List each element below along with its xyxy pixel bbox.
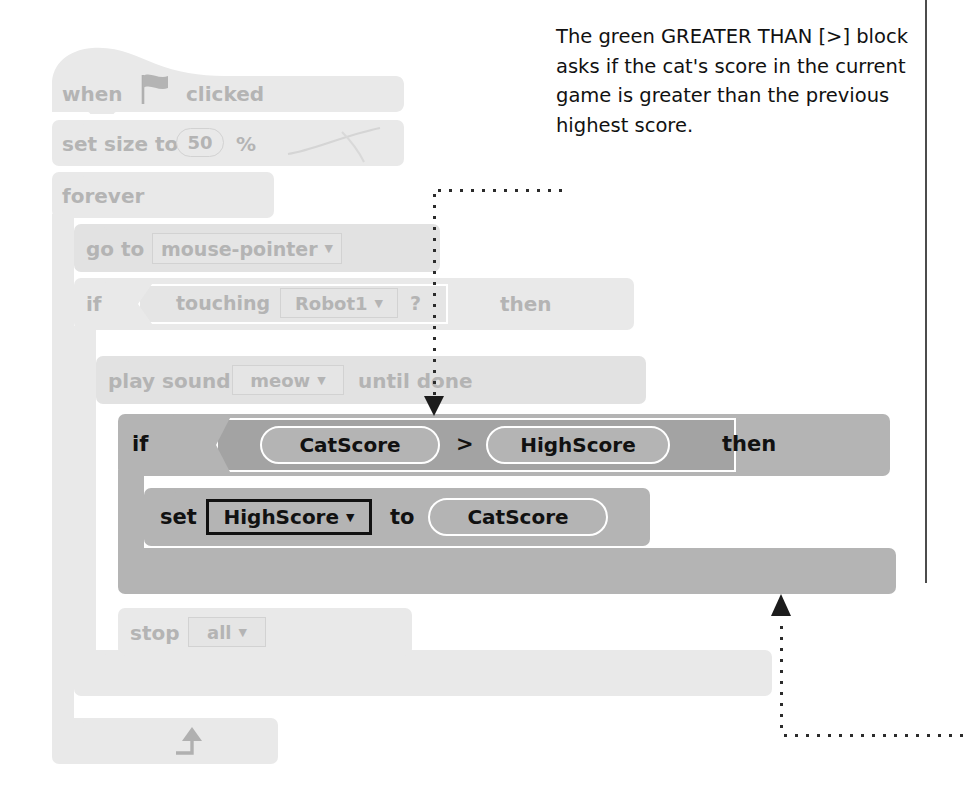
block-play-sound-until-done[interactable]: play sound meow ▼ until done	[96, 356, 646, 404]
stop-target-value: all	[207, 622, 232, 643]
notch-play-sound	[126, 356, 152, 362]
block-set-highscore-to[interactable]: set HighScore ▼ to CatScore	[144, 488, 650, 546]
callout-2-arrowhead-icon	[771, 594, 791, 616]
scratch-script-figure: when clicked set size to 50 % forever	[0, 0, 965, 799]
callout-2-vertical-segment	[779, 622, 784, 735]
block-if-highscore-footer[interactable]	[118, 548, 896, 594]
sound-dropdown[interactable]: meow ▼	[232, 365, 344, 395]
touching-target-dropdown[interactable]: Robot1 ▼	[280, 288, 398, 318]
reporter-catscore-value[interactable]: CatScore	[428, 498, 608, 536]
callout-1-vertical-segment	[432, 190, 437, 402]
stop-label: stop	[130, 621, 180, 645]
callout-1-horizontal-segment	[434, 188, 562, 193]
pencil-smudge	[284, 124, 394, 170]
annotation-text: The green GREATER THAN [>] block asks if…	[556, 22, 916, 140]
go-to-label: go to	[86, 237, 144, 261]
variable-dropdown-value: HighScore	[223, 505, 339, 529]
touching-label: touching	[176, 292, 270, 314]
block-go-to[interactable]: go to mouse-pointer ▼	[74, 224, 440, 272]
chevron-down-icon: ▼	[346, 512, 354, 523]
notch-forever	[82, 172, 108, 178]
stop-target-dropdown[interactable]: all ▼	[188, 617, 266, 647]
until-done-label: until done	[358, 369, 473, 393]
variable-dropdown-highscore[interactable]: HighScore ▼	[206, 499, 372, 535]
touching-question-mark: ?	[410, 292, 421, 314]
if-touching-left-spine	[74, 326, 96, 656]
size-value-input[interactable]: 50	[176, 128, 224, 157]
callout-2-horizontal-segment	[780, 733, 965, 738]
go-to-target-value: mouse-pointer	[161, 238, 318, 260]
chevron-down-icon: ▼	[325, 243, 333, 254]
block-forever-footer[interactable]	[52, 718, 278, 764]
notch-set-size	[82, 120, 108, 126]
block-when-flag-clicked[interactable]: when clicked	[52, 42, 404, 114]
block-if-catscore-greater-highscore[interactable]: if CatScore > HighScore then	[118, 414, 890, 476]
touching-target-value: Robot1	[295, 293, 368, 314]
notch-if-highscore-footer	[148, 548, 174, 554]
percent-label: %	[236, 132, 256, 156]
block-set-size-to[interactable]: set size to 50 %	[52, 120, 404, 166]
if-label: if	[132, 432, 148, 456]
reporter-highscore-right[interactable]: HighScore	[486, 426, 670, 464]
then-label: then	[722, 432, 776, 456]
notch-stop-all	[148, 608, 174, 614]
chevron-down-icon: ▼	[375, 298, 383, 309]
loop-arrow-icon	[172, 726, 212, 762]
notch-set-highscore	[174, 488, 200, 494]
forever-left-spine	[52, 214, 74, 726]
if-touching-if-label: if	[86, 292, 102, 316]
callout-1-arrowhead-icon	[424, 396, 444, 416]
forever-label: forever	[62, 184, 144, 208]
block-stop-all[interactable]: stop all ▼	[118, 608, 412, 656]
notch-if-touching	[104, 278, 130, 284]
if-touching-then-label: then	[500, 292, 552, 316]
chevron-down-icon: ▼	[239, 627, 247, 638]
go-to-target-dropdown[interactable]: mouse-pointer ▼	[152, 233, 342, 264]
notch-if-highscore	[148, 414, 174, 420]
greater-than-operator: >	[456, 432, 474, 456]
to-label: to	[390, 505, 414, 529]
page-vertical-rule	[925, 0, 927, 583]
play-sound-label: play sound	[108, 369, 231, 393]
block-if-touching-footer[interactable]	[74, 650, 772, 696]
when-label: when	[62, 82, 123, 106]
chevron-down-icon: ▼	[317, 375, 325, 386]
block-if-touching-header[interactable]: if touching Robot1 ▼ ? then	[74, 278, 634, 330]
notch-go-to	[104, 224, 130, 230]
clicked-label: clicked	[186, 82, 264, 106]
green-flag-icon	[138, 72, 174, 110]
set-size-to-label: set size to	[62, 132, 178, 156]
notch-forever-footer	[82, 718, 108, 724]
reporter-catscore-left[interactable]: CatScore	[260, 426, 440, 464]
set-label: set	[160, 505, 197, 529]
sound-value: meow	[250, 370, 310, 391]
block-forever-header[interactable]: forever	[52, 172, 274, 218]
